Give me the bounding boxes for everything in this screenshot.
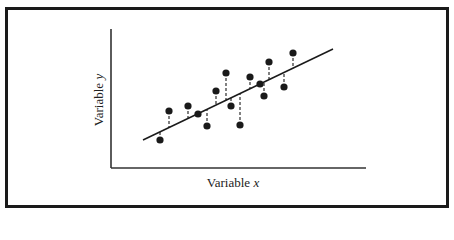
data-point — [194, 110, 201, 117]
y-axis-label-symbol: y — [91, 74, 106, 80]
data-point — [156, 136, 163, 143]
axes — [111, 29, 366, 168]
data-point — [289, 49, 296, 56]
y-axis-label: Variable y — [91, 74, 107, 126]
data-point — [260, 92, 267, 99]
y-axis-label-word: Variable — [91, 83, 106, 126]
x-axis-label-word: Variable — [207, 175, 250, 190]
data-point — [256, 80, 263, 87]
data-point — [246, 73, 253, 80]
data-point — [222, 69, 229, 76]
data-point — [203, 122, 210, 129]
data-point — [227, 102, 234, 109]
data-point — [212, 87, 219, 94]
data-point — [280, 83, 287, 90]
residual-lines — [160, 53, 293, 140]
x-axis-label: Variable x — [207, 175, 259, 191]
data-points — [156, 49, 296, 143]
x-axis-label-symbol: x — [253, 175, 259, 190]
data-point — [165, 107, 172, 114]
data-point — [184, 102, 191, 109]
data-point — [265, 58, 272, 65]
data-point — [236, 121, 243, 128]
